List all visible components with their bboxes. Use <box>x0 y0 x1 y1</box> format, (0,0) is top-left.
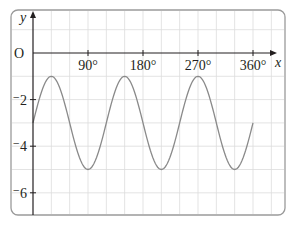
y-tick-label: ⁻6 <box>13 186 27 201</box>
x-tick-label: 270° <box>185 58 212 73</box>
chart: y x O 90°180°270°360° ⁻2⁻4⁻6 <box>0 0 293 225</box>
chart-frame <box>11 10 285 215</box>
x-tick-label: 360° <box>240 58 267 73</box>
y-tick-label: ⁻2 <box>13 93 27 108</box>
x-tick-label: 90° <box>78 58 98 73</box>
y-axis-label: y <box>18 10 27 25</box>
origin-label: O <box>14 46 24 61</box>
x-axis-label: x <box>274 55 282 70</box>
y-tick-label: ⁻4 <box>13 139 27 154</box>
x-tick-label: 180° <box>130 58 157 73</box>
